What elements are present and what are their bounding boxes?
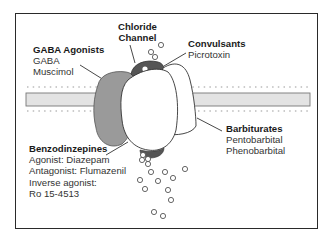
convulsant-item: Picrotoxin	[188, 49, 246, 60]
benzodiazepine-item: Inverse agonist:	[29, 177, 126, 188]
convulsants-label: Convulsants Picrotoxin	[188, 38, 246, 60]
chloride-channel-title-line2: Channel	[118, 32, 157, 43]
barbiturate-item: Phenobarbital	[226, 145, 285, 156]
benzodiazepines-title: Benzodinzepines	[29, 143, 126, 154]
benzodiazepine-item: Antagonist: Flumazenil	[29, 165, 126, 176]
benzodiazepine-item: Ro 15-4513	[29, 188, 126, 199]
gaba-agonists-title: GABA Agonists	[33, 44, 104, 55]
benzodiazepine-item: Agonist: Diazepam	[29, 154, 126, 165]
barbiturates-label: Barbiturates Pentobarbital Phenobarbital	[226, 123, 285, 157]
chloride-channel-label: Chloride Channel	[118, 21, 157, 43]
chloride-channel-title-line1: Chloride	[118, 21, 157, 32]
gaba-agonist-item: Muscimol	[33, 66, 104, 77]
gaba-agonists-label: GABA Agonists GABA Muscimol	[33, 44, 104, 78]
gaba-agonist-item: GABA	[33, 55, 104, 66]
benzodiazepines-label: Benzodinzepines Agonist: Diazepam Antago…	[29, 143, 126, 199]
barbiturates-title: Barbiturates	[226, 123, 285, 134]
convulsants-title: Convulsants	[188, 38, 246, 49]
benzodiazepine-subunit	[121, 69, 178, 150]
barbiturate-item: Pentobarbital	[226, 134, 285, 145]
